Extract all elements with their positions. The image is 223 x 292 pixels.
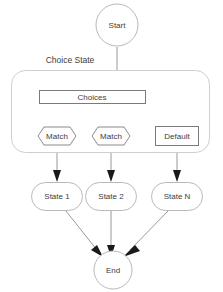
state-n-label: State N [164, 192, 191, 201]
choices-label: Choices [78, 93, 107, 102]
match-2-label: Match [100, 132, 122, 141]
node-match-1[interactable]: Match [38, 127, 76, 145]
node-state-2[interactable]: State 2 [86, 183, 137, 211]
node-end[interactable]: End [94, 251, 132, 289]
state-2-label: State 2 [98, 192, 124, 201]
flowchart-diagram: Choice State Start Choices Match Match D… [0, 0, 223, 292]
node-state-1[interactable]: State 1 [32, 183, 83, 211]
choice-state-group-label: Choice State [46, 55, 95, 65]
default-label: Default [164, 132, 190, 141]
node-start[interactable]: Start [96, 4, 138, 46]
node-state-n[interactable]: State N [152, 183, 203, 211]
edge-state-1-to-end [66, 211, 103, 257]
start-label: Start [109, 21, 127, 30]
edge-state-2-to-end [107, 211, 115, 257]
edge-state-n-to-end [123, 211, 168, 257]
node-choices[interactable]: Choices [40, 91, 146, 104]
match-1-label: Match [46, 132, 68, 141]
flowchart-canvas: Choice State Start Choices Match Match D… [0, 0, 223, 292]
node-default[interactable]: Default [156, 127, 199, 146]
end-label: End [106, 266, 120, 275]
state-1-label: State 1 [44, 192, 70, 201]
node-match-2[interactable]: Match [92, 127, 130, 145]
